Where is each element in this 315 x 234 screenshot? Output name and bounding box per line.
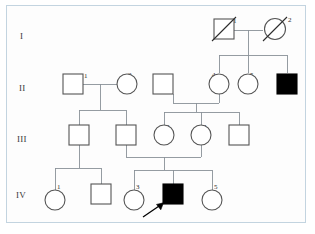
symbol-ii-5-female[interactable]: [238, 74, 258, 94]
symbol-iii-4-female[interactable]: [191, 125, 211, 145]
symbol-iv-2-male[interactable]: [91, 184, 111, 204]
symbol-iii-2-male[interactable]: [116, 125, 136, 145]
symbol-ii-3-male[interactable]: [153, 74, 173, 94]
pedigree-symbols: [45, 17, 297, 217]
pedigree-chart-page: I II III IV 1 2 1 2 3 4 5 6 1 2 3 4 5 1 …: [0, 0, 315, 234]
symbol-iv-3-female[interactable]: [124, 190, 144, 210]
pedigree-graph-layer: [0, 0, 315, 234]
symbol-iii-1-male[interactable]: [69, 125, 89, 145]
symbol-i-1-male-deceased[interactable]: [212, 17, 236, 41]
symbol-ii-1-male[interactable]: [63, 74, 83, 94]
symbol-iii-3-female[interactable]: [154, 125, 174, 145]
symbol-iii-5-male[interactable]: [229, 125, 249, 145]
symbol-iv-1-female[interactable]: [45, 190, 65, 210]
symbol-ii-2-female[interactable]: [117, 74, 137, 94]
symbol-ii-6-male-affected[interactable]: [277, 74, 297, 94]
symbol-ii-4-female[interactable]: [209, 74, 229, 94]
symbol-iv-4-male-affected-proband[interactable]: [163, 184, 183, 204]
connector-lines: [55, 30, 287, 190]
symbol-i-2-female-deceased[interactable]: [263, 17, 287, 41]
proband-arrow-icon: [143, 203, 164, 217]
symbol-iv-5-female[interactable]: [202, 190, 222, 210]
